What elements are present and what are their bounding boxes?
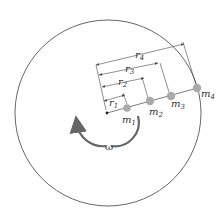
r1-label: r1: [109, 97, 118, 110]
diagram-canvas: r1 r2 r3 r4 m1 m2 m3 m4 ω: [0, 0, 224, 219]
m4-label: m4: [201, 88, 215, 101]
mass-4: [193, 84, 201, 92]
m3-label: m3: [171, 98, 185, 111]
m1-label: m1: [122, 114, 136, 127]
omega-label: ω: [105, 141, 113, 152]
r2-label: r2: [118, 76, 128, 89]
mass-2: [146, 97, 154, 105]
m2-label: m2: [149, 106, 163, 119]
r4-label: r4: [135, 49, 144, 62]
center-point: [106, 112, 109, 115]
mass-1: [123, 104, 131, 112]
r3-label: r3: [125, 63, 135, 76]
